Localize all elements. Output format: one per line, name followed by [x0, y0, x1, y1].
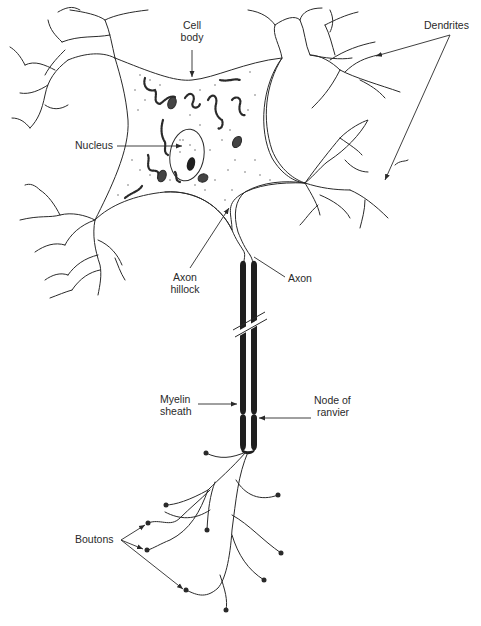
- label-node-of-ranvier: Node of ranvier: [259, 394, 351, 418]
- dendrites: [10, 7, 408, 298]
- axon: [232, 230, 253, 262]
- svg-text:Dendrites: Dendrites: [424, 19, 469, 31]
- svg-text:sheath: sheath: [160, 405, 192, 417]
- svg-text:body: body: [181, 31, 205, 43]
- label-dendrites: Dendrites: [376, 19, 469, 180]
- cell-body: [95, 58, 305, 230]
- svg-text:Myelin: Myelin: [160, 393, 191, 405]
- svg-text:Cell: Cell: [183, 19, 201, 31]
- svg-text:Node of: Node of: [314, 394, 351, 406]
- axon-terminals: [148, 452, 281, 610]
- neuron-diagram: Cell body Dendrites Nucleus Axon hillock…: [0, 0, 481, 626]
- svg-text:Axon: Axon: [173, 271, 197, 283]
- svg-text:ranvier: ranvier: [317, 406, 350, 418]
- label-myelin-sheath: Myelin sheath: [160, 393, 237, 417]
- boutons: [145, 451, 284, 613]
- svg-text:Axon: Axon: [288, 272, 312, 284]
- label-boutons: Boutons: [75, 525, 183, 589]
- svg-text:Nucleus: Nucleus: [75, 139, 113, 151]
- nissl-bodies: [125, 78, 245, 198]
- nucleolus: [185, 156, 196, 172]
- label-cell-body: Cell body: [181, 19, 205, 77]
- myelin-sheath: [233, 261, 267, 454]
- svg-text:Boutons: Boutons: [75, 533, 114, 545]
- label-axon: Axon: [254, 257, 312, 284]
- label-axon-hillock: Axon hillock: [170, 208, 229, 295]
- cytoplasm-dots: [117, 71, 270, 200]
- svg-text:hillock: hillock: [170, 283, 200, 295]
